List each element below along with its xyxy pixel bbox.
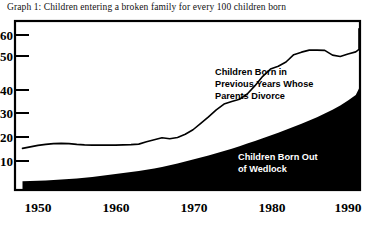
chart-plot-area: 60 50 40 30 20 10 Children Born in Previ… (0, 0, 372, 228)
annotation-wedlock-line-2: of Wedlock (238, 164, 288, 174)
annotation-wedlock-line-1: Children Born Out (238, 152, 318, 162)
y-tick-label-10: 10 (0, 154, 13, 169)
x-tick-label-1970: 1970 (181, 200, 208, 215)
y-tick-label-20: 20 (0, 130, 13, 145)
y-tick-label-50: 50 (0, 49, 13, 64)
chart-figure: Graph 1: Children entering a broken fami… (0, 0, 372, 228)
annotation-divorce: Children Born in Previous Years Whose Pa… (215, 67, 313, 101)
annotation-divorce-line-2: Previous Years Whose (215, 79, 313, 89)
annotation-divorce-line-1: Children Born in (215, 67, 287, 77)
y-axis-tick-labels: 60 50 40 30 20 10 (0, 28, 13, 169)
x-tick-label-1990: 1990 (335, 200, 362, 215)
y-tick-label-30: 30 (0, 106, 13, 121)
x-axis-tick-labels: 1950 1960 1970 1980 1990 (25, 200, 362, 215)
x-tick-label-1960: 1960 (103, 200, 130, 215)
annotation-divorce-line-3: Parents Divorce (215, 91, 285, 101)
y-axis-ticks (15, 35, 29, 161)
series-area-born-out-of-wedlock (23, 85, 360, 190)
y-tick-label-40: 40 (0, 83, 13, 98)
y-tick-label-60: 60 (0, 28, 13, 43)
x-tick-label-1950: 1950 (25, 200, 52, 215)
x-tick-label-1980: 1980 (259, 200, 286, 215)
